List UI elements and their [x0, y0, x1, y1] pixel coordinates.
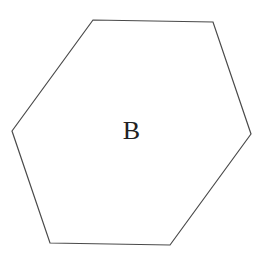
hexagon-label: B [0, 118, 258, 144]
diagram-canvas: B [0, 0, 258, 259]
